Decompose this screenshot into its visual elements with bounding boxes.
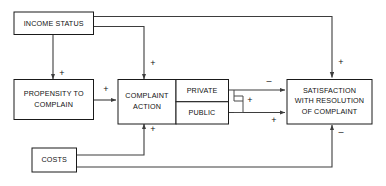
node-income-status: INCOME STATUS — [14, 12, 94, 35]
satisfaction-label-line-1: SATISFACTION — [303, 86, 356, 95]
node-public: PUBLIC — [176, 102, 229, 124]
sign-propensity-to-complaint-action: + — [103, 84, 108, 94]
complaint-action-label-line-1: COMPLAINT — [125, 91, 169, 100]
sign-income-to-propensity: + — [59, 68, 64, 78]
sign-private-to-satisfaction: – — [266, 76, 271, 86]
public-label: PUBLIC — [189, 108, 216, 117]
sign-income-to-satisfaction: + — [338, 57, 343, 67]
edge-costs-to-complaint-action — [77, 124, 145, 155]
private-label: PRIVATE — [187, 86, 218, 95]
edge-costs-to-satisfaction — [77, 125, 333, 167]
node-private: PRIVATE — [176, 80, 229, 102]
flow-diagram: + + + + – + + + – INCOME STATUS PROPENSI… — [0, 0, 386, 186]
sign-costs-to-complaint-action: + — [150, 124, 155, 134]
node-satisfaction: SATISFACTION WITH RESOLUTION OF COMPLAIN… — [287, 80, 372, 125]
sign-costs-to-satisfaction: – — [338, 127, 343, 137]
edge-income-to-satisfaction — [94, 17, 333, 78]
complaint-action-label-line-2: ACTION — [133, 102, 161, 111]
node-propensity-to-complain: PROPENSITY TO COMPLAIN — [14, 80, 94, 120]
costs-label: COSTS — [41, 155, 67, 164]
diagram-canvas: + + + + – + + + – INCOME STATUS PROPENSI… — [0, 0, 386, 186]
propensity-label-line-2: COMPLAIN — [34, 100, 73, 109]
income-status-label: INCOME STATUS — [24, 19, 84, 28]
edge-private-public-bracket — [234, 96, 243, 113]
satisfaction-label-line-3: OF COMPLAINT — [302, 107, 358, 116]
sign-income-to-complaint-action: + — [150, 58, 155, 68]
satisfaction-label-line-2: WITH RESOLUTION — [295, 96, 364, 105]
edge-income-to-complaint-action — [94, 27, 145, 80]
sign-public-to-satisfaction: + — [271, 115, 276, 125]
sign-private-public-link: + — [247, 95, 252, 105]
node-complaint-action: COMPLAINT ACTION — [118, 80, 176, 125]
node-costs: COSTS — [32, 148, 77, 172]
propensity-label-line-1: PROPENSITY TO — [24, 89, 84, 98]
